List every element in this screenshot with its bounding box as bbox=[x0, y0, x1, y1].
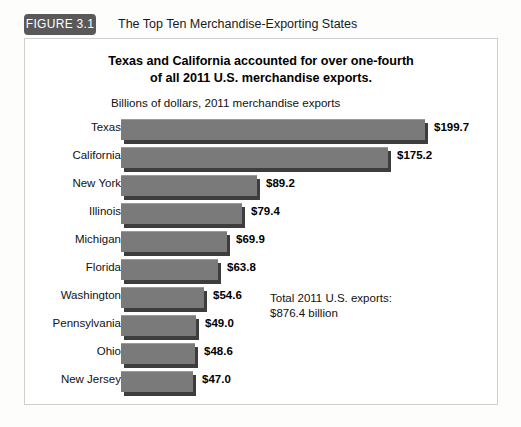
bar-category-label: Illinois bbox=[1, 205, 121, 217]
bar bbox=[121, 371, 193, 392]
bar bbox=[121, 147, 388, 168]
bar-category-label: Texas bbox=[1, 121, 121, 133]
bar bbox=[121, 343, 195, 364]
bar-category-label: New Jersey bbox=[1, 373, 121, 385]
chart-title-line-2: of all 2011 U.S. merchandise exports. bbox=[150, 71, 372, 85]
figure-header: FIGURE 3.1 The Top Ten Merchandise-Expor… bbox=[24, 13, 357, 35]
bar bbox=[121, 287, 204, 308]
bar-row: Illinois$79.4 bbox=[25, 201, 499, 229]
bar-fill bbox=[121, 203, 242, 224]
bar-row: California$175.2 bbox=[25, 145, 499, 173]
figure-panel: Texas and California accounted for over … bbox=[24, 38, 498, 405]
bar bbox=[121, 119, 425, 140]
bar-category-label: Washington bbox=[1, 289, 121, 301]
bar-category-label: California bbox=[1, 149, 121, 161]
bar-category-label: Ohio bbox=[1, 345, 121, 357]
bar-chart-plot-area: Texas$199.7California$175.2New York$89.2… bbox=[25, 117, 499, 397]
bar-row: Michigan$69.9 bbox=[25, 229, 499, 257]
bar-fill bbox=[121, 147, 388, 168]
total-exports-annotation-line-1: Total 2011 U.S. exports: bbox=[270, 291, 392, 306]
bar-fill bbox=[121, 371, 193, 392]
bar bbox=[121, 259, 218, 280]
bar-row: Texas$199.7 bbox=[25, 117, 499, 145]
bar-fill bbox=[121, 175, 257, 196]
bar-value-label: $47.0 bbox=[202, 373, 231, 385]
bar-row: Pennsylvania$49.0 bbox=[25, 313, 499, 341]
bar bbox=[121, 203, 242, 224]
total-exports-annotation-line-2: $876.4 billion bbox=[270, 306, 392, 321]
bar-value-label: $48.6 bbox=[204, 345, 233, 357]
bar-value-label: $89.2 bbox=[266, 177, 295, 189]
figure-root: FIGURE 3.1 The Top Ten Merchandise-Expor… bbox=[0, 0, 521, 427]
bar-fill bbox=[121, 315, 196, 336]
bar-value-label: $63.8 bbox=[227, 261, 256, 273]
bar-fill bbox=[121, 343, 195, 364]
bar-category-label: Florida bbox=[1, 261, 121, 273]
bar-category-label: Michigan bbox=[1, 233, 121, 245]
bar-row: Florida$63.8 bbox=[25, 257, 499, 285]
bar-value-label: $54.6 bbox=[213, 289, 242, 301]
figure-caption: The Top Ten Merchandise-Exporting States bbox=[118, 17, 357, 31]
bar-category-label: New York bbox=[1, 177, 121, 189]
bar-row: New Jersey$47.0 bbox=[25, 369, 499, 397]
chart-title-line-1: Texas and California accounted for over … bbox=[108, 54, 414, 68]
bar-row: Washington$54.6 bbox=[25, 285, 499, 313]
bar-value-label: $79.4 bbox=[251, 205, 280, 217]
bar-value-label: $49.0 bbox=[205, 317, 234, 329]
bar bbox=[121, 175, 257, 196]
figure-number-badge: FIGURE 3.1 bbox=[24, 14, 96, 35]
bar-fill bbox=[121, 119, 425, 140]
bar-fill bbox=[121, 231, 227, 252]
bar-fill bbox=[121, 287, 204, 308]
bar-value-label: $175.2 bbox=[397, 149, 432, 161]
bar-row: New York$89.2 bbox=[25, 173, 499, 201]
bar-value-label: $69.9 bbox=[236, 233, 265, 245]
chart-title: Texas and California accounted for over … bbox=[25, 53, 497, 87]
bar-category-label: Pennsylvania bbox=[1, 317, 121, 329]
bar-row: Ohio$48.6 bbox=[25, 341, 499, 369]
bar bbox=[121, 315, 196, 336]
bar-fill bbox=[121, 259, 218, 280]
bar bbox=[121, 231, 227, 252]
total-exports-annotation: Total 2011 U.S. exports: $876.4 billion bbox=[270, 291, 392, 321]
bar-value-label: $199.7 bbox=[434, 121, 469, 133]
chart-subtitle: Billions of dollars, 2011 merchandise ex… bbox=[111, 96, 340, 109]
